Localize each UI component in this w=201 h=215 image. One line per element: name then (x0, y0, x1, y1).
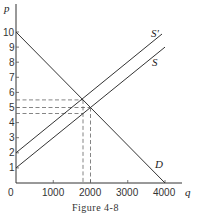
curve-label-D: D (154, 158, 163, 170)
svg-text:10: 10 (3, 27, 15, 38)
svg-text:4000: 4000 (153, 187, 176, 198)
curve-label-S-prime: S' (151, 27, 160, 39)
reference-lines (16, 100, 91, 183)
x-axis-label: q (185, 186, 191, 198)
svg-text:2000: 2000 (79, 187, 102, 198)
svg-text:0: 0 (8, 187, 14, 198)
curve-label-S: S (152, 56, 158, 68)
svg-text:6: 6 (9, 87, 15, 98)
svg-text:7: 7 (9, 72, 15, 83)
svg-text:2: 2 (9, 147, 15, 158)
svg-text:9: 9 (9, 42, 15, 53)
svg-text:5: 5 (9, 102, 15, 113)
svg-text:3000: 3000 (116, 187, 139, 198)
svg-text:3: 3 (9, 132, 15, 143)
y-axis-label: p (3, 2, 10, 14)
svg-text:1: 1 (9, 162, 15, 173)
supply-demand-chart: p q D S S' 10 9 8 7 6 5 4 3 2 1 0 1000 2… (0, 0, 201, 215)
svg-text:1000: 1000 (42, 187, 65, 198)
y-tick-labels: 10 9 8 7 6 5 4 3 2 1 (3, 27, 15, 173)
figure-caption: Figure 4-8 (72, 202, 119, 213)
svg-text:4: 4 (9, 117, 15, 128)
x-tick-labels: 0 1000 2000 3000 4000 (8, 187, 176, 198)
svg-text:8: 8 (9, 57, 15, 68)
supply-line-S-prime (16, 34, 162, 153)
